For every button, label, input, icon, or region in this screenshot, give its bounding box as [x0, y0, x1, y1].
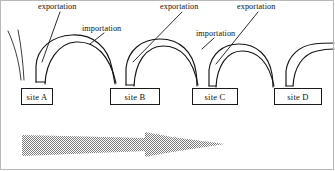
- site-label-a: site A: [27, 92, 48, 102]
- leader-importation-2: [202, 38, 214, 49]
- leader-exportation-3: [216, 12, 258, 64]
- diagram-canvas: site A site B site C site D exportation …: [0, 0, 335, 171]
- leader-exportation-1: [42, 12, 60, 62]
- time-direction-arrow-shape: [22, 132, 225, 159]
- label-exportation-3: exportation: [237, 2, 275, 11]
- label-importation-2: importation: [196, 29, 235, 38]
- site-box-c[interactable]: site C: [192, 88, 238, 105]
- arch-inflow-left-inner: [18, 30, 24, 80]
- site-box-a[interactable]: site A: [21, 88, 53, 105]
- site-label-c: site C: [205, 92, 226, 102]
- site-box-b[interactable]: site B: [110, 88, 160, 105]
- arch-inflow-left-outer: [8, 31, 21, 80]
- label-importation-1: importation: [82, 24, 121, 33]
- site-label-b: site B: [125, 92, 146, 102]
- label-exportation-1: exportation: [38, 2, 76, 11]
- leader-exportation-2: [133, 12, 182, 62]
- label-exportation-2: exportation: [160, 2, 198, 11]
- arch-d-outflow-inner: [293, 49, 334, 86]
- time-direction-arrow: [22, 132, 225, 159]
- site-box-d[interactable]: site D: [274, 88, 322, 105]
- site-label-d: site D: [287, 92, 308, 102]
- arch-a-to-b-inner: [45, 42, 116, 84]
